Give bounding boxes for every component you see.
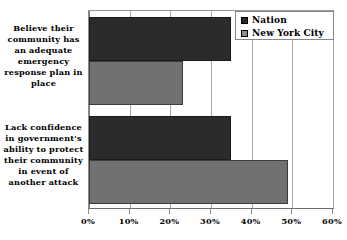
bar-nation-cat1	[89, 116, 231, 160]
tick-30	[210, 209, 211, 214]
legend-label: New York City	[252, 28, 324, 38]
x-tick-label-0: 0%	[68, 216, 108, 226]
x-tick-label-30: 30%	[190, 216, 230, 226]
tick-50	[291, 209, 292, 214]
category-label-line: their community	[0, 155, 87, 166]
tick-0	[88, 209, 89, 214]
category-label-line: place	[0, 78, 87, 89]
bar-nation-cat0	[89, 17, 231, 61]
legend-item-nation[interactable]: Nation	[241, 14, 333, 26]
category-label-emergency-plan: Believe their community has an adequate …	[0, 23, 87, 90]
x-tick-label-10: 10%	[109, 216, 149, 226]
legend-label: Nation	[252, 15, 287, 25]
category-label-line: ability to protect	[0, 144, 87, 155]
category-label-line: another attack	[0, 177, 87, 188]
category-axis-labels: Believe their community has an adequate …	[0, 10, 87, 209]
x-axis-tick-labels: 0%10%20%30%40%50%60%	[0, 216, 339, 232]
legend-item-new-york-city[interactable]: New York City	[241, 27, 333, 39]
x-tick-label-20: 20%	[149, 216, 189, 226]
gridline-50	[292, 11, 293, 208]
x-axis-ticks	[88, 209, 334, 215]
x-tick-label-40: 40%	[231, 216, 271, 226]
square-swatch-icon	[241, 17, 248, 24]
tick-20	[169, 209, 170, 214]
category-label-line: response plan in	[0, 67, 87, 78]
category-label-line: in event of	[0, 166, 87, 177]
category-label-lack-confidence: Lack confidence in government's ability …	[0, 122, 87, 189]
category-label-line: emergency	[0, 56, 87, 67]
category-label-line: in government's	[0, 133, 87, 144]
square-swatch-icon	[241, 30, 248, 37]
legend: Nation New York City	[235, 11, 334, 40]
category-label-line: Lack confidence	[0, 122, 87, 133]
bar-new-york-city-cat1	[89, 160, 288, 204]
gridline-60	[333, 11, 334, 208]
category-label-line: community has	[0, 34, 87, 45]
x-tick-label-60: 60%	[312, 216, 347, 226]
bar-new-york-city-cat0	[89, 61, 183, 105]
category-label-line: an adequate	[0, 45, 87, 56]
x-tick-label-50: 50%	[271, 216, 311, 226]
category-label-line: Believe their	[0, 23, 87, 34]
tick-60	[332, 209, 333, 214]
tick-40	[251, 209, 252, 214]
tick-10	[129, 209, 130, 214]
